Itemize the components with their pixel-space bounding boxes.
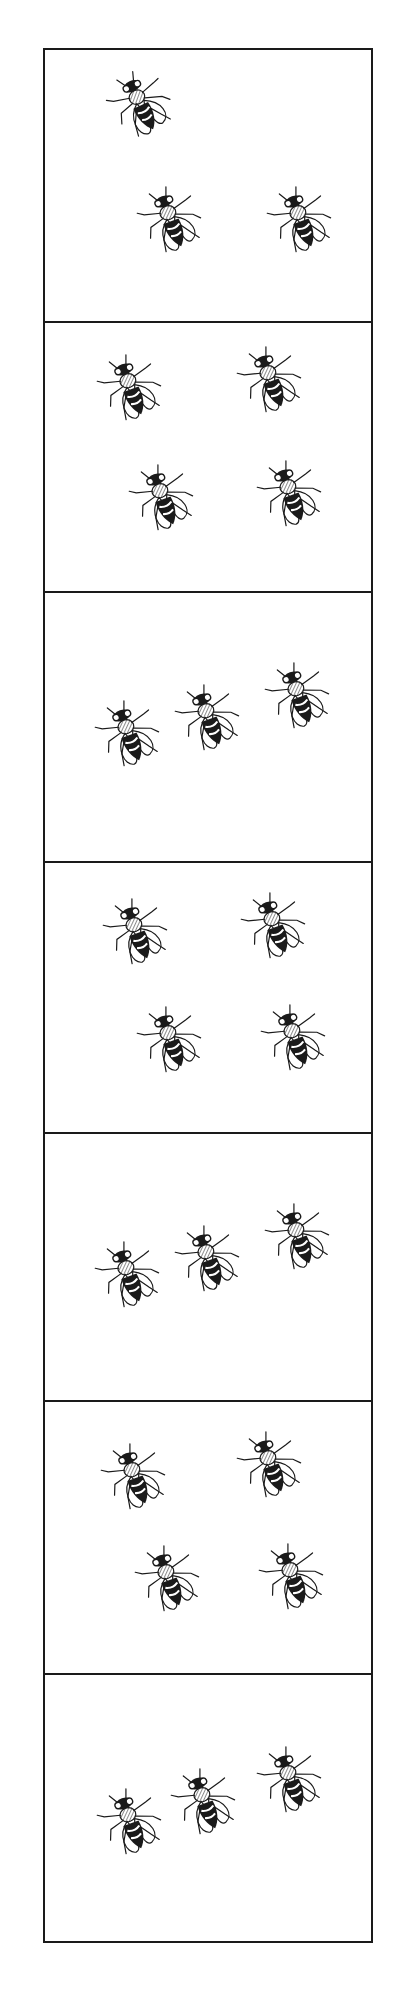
panel-3 <box>45 592 371 862</box>
panel-6 <box>45 1401 371 1671</box>
fly-icon <box>89 1431 182 1530</box>
panel-5 <box>45 1133 371 1403</box>
fly-icon <box>249 992 342 1091</box>
fly-icon <box>93 57 190 159</box>
fly-icon <box>245 448 338 547</box>
fly-icon <box>225 1419 318 1518</box>
panel-4 <box>45 862 371 1132</box>
fly-icon <box>125 174 218 273</box>
fly-icon <box>225 334 318 433</box>
panel-divider <box>45 861 371 863</box>
fly-icon <box>85 342 178 441</box>
fly-icon <box>229 880 322 979</box>
fly-icon <box>253 650 346 749</box>
panel-divider <box>45 321 371 323</box>
panel-divider <box>45 1400 371 1402</box>
fly-icon <box>163 1213 256 1312</box>
fly-icon <box>91 886 184 985</box>
fly-icon <box>117 452 210 551</box>
fly-icon <box>123 1533 216 1632</box>
fly-icon <box>247 1531 340 1630</box>
fly-panel-strip <box>43 48 373 1943</box>
panel-2 <box>45 322 371 592</box>
panel-divider <box>45 1132 371 1134</box>
panel-7 <box>45 1674 371 1944</box>
fly-icon <box>163 672 256 771</box>
fly-icon <box>125 994 218 1093</box>
fly-icon <box>255 174 348 273</box>
fly-icon <box>245 1734 338 1833</box>
panel-divider <box>45 1673 371 1675</box>
fly-icon <box>253 1191 346 1290</box>
panel-1 <box>45 50 371 320</box>
panel-divider <box>45 591 371 593</box>
fly-icon <box>83 688 176 787</box>
fly-icon <box>83 1229 176 1328</box>
